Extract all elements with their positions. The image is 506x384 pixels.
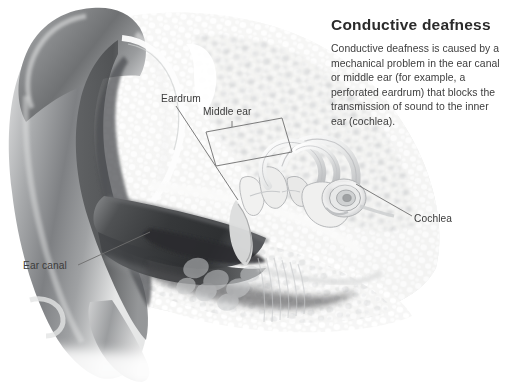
page-title: Conductive deafness [331, 16, 503, 33]
label-ear-canal: Ear canal [23, 260, 67, 271]
label-cochlea: Cochlea [414, 213, 452, 224]
illustration-canvas: Conductive deafness Conductive deafness … [0, 0, 506, 384]
description-text: Conductive deafness is caused by a mecha… [331, 42, 503, 130]
label-middle-ear: Middle ear [203, 106, 252, 117]
info-panel: Conductive deafness Conductive deafness … [331, 16, 503, 130]
cochlea [322, 179, 366, 217]
label-eardrum: Eardrum [161, 93, 201, 104]
